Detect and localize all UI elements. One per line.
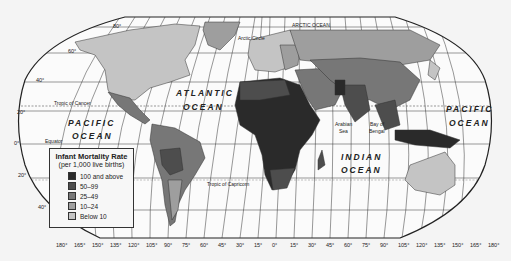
pacific-ocean-east-label-1: PACIFIC bbox=[446, 105, 493, 114]
legend-item: Below 10 bbox=[68, 211, 129, 221]
pacific-ocean-west-label-1: PACIFIC bbox=[68, 119, 115, 128]
lon-label: 15° bbox=[290, 243, 298, 249]
legend-swatch bbox=[68, 182, 76, 190]
legend-swatch bbox=[68, 202, 76, 210]
legend-item-label: 50–99 bbox=[80, 183, 98, 190]
indian-ocean-label-2: OCEAN bbox=[341, 166, 382, 175]
lon-label: 180° bbox=[56, 243, 67, 249]
lon-label: 75° bbox=[182, 243, 190, 249]
bay-of-bengal-label-1: Bay of bbox=[370, 122, 384, 127]
lon-label: 150° bbox=[452, 243, 463, 249]
indian-ocean-label-1: INDIAN bbox=[341, 153, 382, 162]
arctic-ocean-label: ARCTIC OCEAN bbox=[292, 23, 330, 28]
legend-swatch bbox=[68, 172, 76, 180]
map-legend: Infant Mortality Rate (per 1,000 live bi… bbox=[49, 148, 134, 228]
legend-item: 100 and above bbox=[68, 171, 129, 181]
legend-item-label: 25–49 bbox=[80, 193, 98, 200]
legend-title: Infant Mortality Rate bbox=[54, 152, 129, 161]
lat-label-40s: 40° bbox=[38, 205, 46, 211]
lat-label-40n: 40° bbox=[36, 78, 44, 84]
atlantic-ocean-label-2: OCEAN bbox=[183, 103, 224, 112]
arabian-sea-label-1: Arabian bbox=[335, 122, 352, 127]
lon-label: 165° bbox=[74, 243, 85, 249]
lon-label: 90° bbox=[380, 243, 388, 249]
bay-of-bengal-label-2: Bengal bbox=[369, 129, 385, 134]
lon-label: 45° bbox=[326, 243, 334, 249]
lat-label-20n: 20° bbox=[17, 110, 25, 116]
tropic-of-cancer-label: Tropic of Cancer bbox=[54, 101, 91, 106]
lat-label-60n: 60° bbox=[68, 49, 76, 55]
tropic-of-capricorn-label: Tropic of Capricorn bbox=[207, 182, 249, 187]
lon-label: 180° bbox=[488, 243, 499, 249]
lat-label-80n: 80° bbox=[113, 24, 121, 30]
legend-swatch bbox=[68, 192, 76, 200]
legend-item: 25–49 bbox=[68, 191, 129, 201]
lon-label: 135° bbox=[110, 243, 121, 249]
pacific-ocean-east-label-2: OCEAN bbox=[449, 119, 490, 128]
lon-label: 165° bbox=[470, 243, 481, 249]
lon-label: 105° bbox=[398, 243, 409, 249]
arabian-sea-label-2: Sea bbox=[339, 129, 348, 134]
lon-label: 90° bbox=[164, 243, 172, 249]
legend-item: 50–99 bbox=[68, 181, 129, 191]
lon-label: 60° bbox=[344, 243, 352, 249]
lon-label: 30° bbox=[236, 243, 244, 249]
legend-item-label: 100 and above bbox=[80, 173, 123, 180]
lon-label: 45° bbox=[218, 243, 226, 249]
lat-label-0: 0° bbox=[14, 141, 19, 147]
lon-label: 105° bbox=[146, 243, 157, 249]
lon-label: 120° bbox=[416, 243, 427, 249]
arctic-circle-label: Arctic Circle bbox=[238, 36, 265, 41]
legend-subtitle: (per 1,000 live births) bbox=[54, 161, 129, 168]
lon-label: 0° bbox=[272, 243, 277, 249]
lon-label: 60° bbox=[200, 243, 208, 249]
lat-label-20s: 20° bbox=[18, 173, 26, 179]
lon-label: 150° bbox=[92, 243, 103, 249]
lon-label: 30° bbox=[308, 243, 316, 249]
legend-item: 10–24 bbox=[68, 201, 129, 211]
equator-label: Equator bbox=[45, 139, 63, 144]
legend-item-label: Below 10 bbox=[80, 213, 107, 220]
pacific-ocean-west-label-2: OCEAN bbox=[72, 132, 113, 141]
lon-label: 75° bbox=[362, 243, 370, 249]
lon-label: 120° bbox=[128, 243, 139, 249]
lon-label: 135° bbox=[434, 243, 445, 249]
atlantic-ocean-label-1: ATLANTIC bbox=[176, 89, 234, 98]
legend-item-label: 10–24 bbox=[80, 203, 98, 210]
legend-swatch bbox=[68, 212, 76, 220]
lon-label: 15° bbox=[254, 243, 262, 249]
